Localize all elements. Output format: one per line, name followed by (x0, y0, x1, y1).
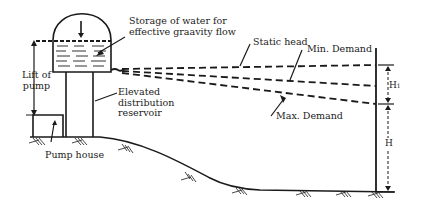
h1-subscript: 1 (397, 82, 401, 89)
static-head-label: Static head (253, 37, 308, 48)
static-head-leader (240, 44, 250, 66)
min-demand-leader (290, 50, 302, 80)
elevated-leader (95, 93, 117, 101)
storage-label: Storage of water for effective graavity … (129, 16, 236, 37)
tank-outline (53, 14, 111, 72)
ground-hatching (29, 138, 383, 198)
water-hatching (56, 46, 106, 66)
elevated-label-line1: Elevated (118, 87, 174, 98)
pump-house-leader (51, 124, 54, 142)
static-head-line (122, 65, 376, 69)
pump-house-label: Pump house (45, 150, 104, 161)
elevated-label-line3: reservoir (118, 108, 174, 119)
min-demand-label: Min. Demand (307, 44, 372, 55)
storage-label-line2: effective graavity flow (129, 27, 236, 38)
h-label: H (385, 138, 393, 149)
lift-label-line1: Lift of (22, 70, 51, 81)
storage-label-line1: Storage of water for (129, 16, 236, 27)
lift-of-pump-label: Lift of pump (22, 70, 51, 91)
ground-profile (30, 137, 395, 192)
elevated-reservoir-label: Elevated distribution reservoir (118, 87, 174, 119)
max-demand-label: Max. Demand (276, 111, 343, 122)
diagram-canvas: Storage of water for effective graavity … (0, 0, 421, 212)
h1-letter: H (389, 80, 397, 90)
h1-label: H1 (389, 80, 401, 92)
pump-house (33, 115, 63, 137)
lift-label-line2: pump (22, 81, 51, 92)
